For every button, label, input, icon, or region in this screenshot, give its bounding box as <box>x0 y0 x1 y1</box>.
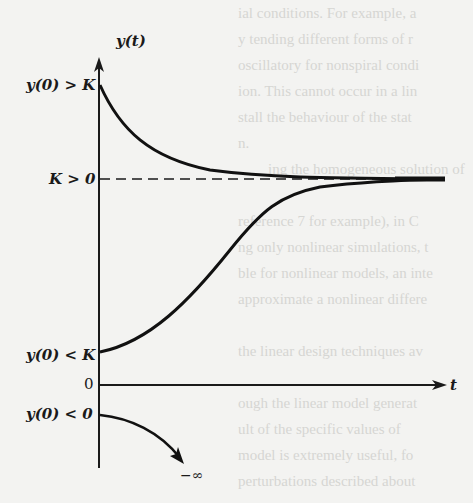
t-axis-label: t <box>450 378 457 393</box>
y-axis-label: y(t) <box>116 34 146 49</box>
label-k: K > 0 <box>49 172 96 187</box>
label-negative-infinity: −∞ <box>180 468 203 482</box>
curve-above-k <box>100 85 445 179</box>
label-origin: 0 <box>84 377 94 392</box>
textbook-page: ial conditions. For example, a y tending… <box>0 0 473 503</box>
curve-negative <box>100 415 180 458</box>
label-below-k: y(0) < K <box>26 348 95 363</box>
label-negative: y(0) < 0 <box>26 407 93 422</box>
label-above-k: y(0) > K <box>26 78 95 93</box>
curve-below-k <box>100 179 445 352</box>
